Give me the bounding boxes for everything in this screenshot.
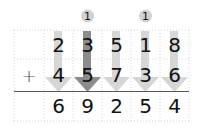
digit: 1: [139, 33, 152, 57]
carry-digit: 1: [84, 10, 91, 23]
digit: 4: [52, 63, 65, 87]
digit: 5: [139, 94, 152, 118]
addition-worksheet: 1 1 2 3 5 1 8 + 4 5 7 3 6 6 9 2 5 4: [0, 0, 199, 129]
digit: 9: [81, 94, 94, 118]
sum-row: 6 9 2 5 4: [52, 94, 181, 118]
carry-digit: 1: [142, 10, 149, 23]
digit: 2: [52, 33, 65, 57]
digit: 4: [168, 94, 181, 118]
digit: 8: [168, 33, 181, 57]
digit: 3: [139, 63, 152, 87]
digit: 6: [168, 63, 181, 87]
plus-sign: +: [21, 65, 36, 86]
carry-marks: 1 1: [81, 10, 152, 24]
digit: 5: [81, 63, 94, 87]
digit: 5: [110, 33, 123, 57]
digit: 7: [110, 63, 123, 87]
addend-1-row: 2 3 5 1 8: [52, 33, 181, 57]
digit: 3: [81, 33, 94, 57]
digit: 6: [52, 94, 65, 118]
addend-2-row: + 4 5 7 3 6: [21, 63, 180, 87]
digit: 2: [110, 94, 123, 118]
grid: [14, 30, 189, 121]
